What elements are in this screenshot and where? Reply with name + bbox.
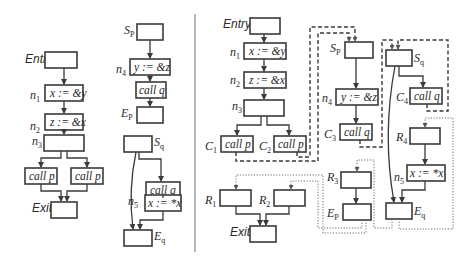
c4-code: call q xyxy=(414,90,440,103)
eq-node xyxy=(124,230,152,246)
n3-label: n3 xyxy=(32,134,42,150)
r-sp-node xyxy=(345,42,373,58)
n2-code: z := &x xyxy=(49,116,87,128)
n4-label: n4 xyxy=(116,62,126,78)
r-n2-code: z := &x xyxy=(248,74,286,86)
r4-node xyxy=(410,128,440,144)
exit-label: Exit xyxy=(32,201,53,215)
r2-node xyxy=(274,190,305,206)
ep-label: EP xyxy=(120,106,133,122)
r-n3-node xyxy=(244,100,284,116)
r-entry-label: Entry xyxy=(223,17,252,31)
r-n1-code: x := &y xyxy=(248,45,286,58)
r-n5-label: n5 xyxy=(394,170,404,186)
left-proc-q-cfg: Sq call q n5 x := *x Eq xyxy=(124,135,182,246)
sp-node xyxy=(137,24,163,40)
r4-label: R4 xyxy=(395,130,407,146)
r-eq-node xyxy=(386,203,412,219)
n3-node xyxy=(44,135,84,151)
ep-node xyxy=(137,107,163,123)
r-n4-code: y := &z xyxy=(340,91,377,104)
r-n1-label: n1 xyxy=(230,45,240,61)
r-n2-label: n2 xyxy=(230,73,240,89)
entry-node xyxy=(45,52,77,68)
r-entry-node xyxy=(250,18,280,34)
n5-code: x := *x xyxy=(147,197,182,209)
c3-code: call q xyxy=(344,126,370,139)
c1-code: call p xyxy=(225,138,251,151)
r3-node xyxy=(341,172,371,188)
n1-label: n1 xyxy=(30,88,40,104)
right-proc-p-supergraph: SP n4 y := &z C3 call q R3 EP xyxy=(322,41,378,222)
sq-node xyxy=(124,136,152,152)
r-sq-node xyxy=(386,50,412,66)
left-main-cfg: Entry n1 x := &y n2 z := &x n3 call p ca… xyxy=(25,52,103,218)
r-exit-label: Exit xyxy=(230,225,251,239)
r-sp-label: SP xyxy=(330,41,341,57)
right-proc-q-supergraph: Sq C4 call q R4 n5 x := *x Eq xyxy=(386,50,445,220)
left-proc-p-cfg: SP n4 y := &z call q EP xyxy=(116,23,170,123)
c4-label: C4 xyxy=(396,90,408,106)
c3-label: C3 xyxy=(324,127,336,143)
c2-code: call p xyxy=(278,138,304,151)
r-ep-node xyxy=(343,204,371,220)
r3-label: R3 xyxy=(326,170,338,186)
r-n5-code: x := *x xyxy=(409,167,444,179)
r1-label: R1 xyxy=(204,193,216,209)
r-eq-label: Eq xyxy=(413,204,425,220)
c2-label: C2 xyxy=(259,139,271,155)
sq-label: Sq xyxy=(154,135,164,151)
r-n3-label: n3 xyxy=(232,99,242,115)
call-q-p-code: call q xyxy=(139,84,165,97)
n1-code: x := &y xyxy=(49,87,87,100)
r1-node xyxy=(220,190,251,206)
call-p-left-code: call p xyxy=(29,170,55,183)
call-p-right-code: call p xyxy=(75,170,101,183)
icfg-diagram: Entry n1 x := &y n2 z := &x n3 call p ca… xyxy=(0,0,474,260)
r-ep-label: EP xyxy=(326,206,339,222)
exit-node xyxy=(51,202,77,218)
eq-label: Eq xyxy=(153,229,165,245)
sp-label: SP xyxy=(124,23,135,39)
right-main-supergraph: Entry n1 x := &y n2 z := &x n3 C1 call p… xyxy=(204,17,306,242)
r-sq-label: Sq xyxy=(414,51,424,67)
n4-code: y := &z xyxy=(133,61,170,74)
r-n4-label: n4 xyxy=(322,91,332,107)
c1-label: C1 xyxy=(205,139,217,155)
n2-label: n2 xyxy=(30,119,40,135)
n5-label: n5 xyxy=(128,194,138,210)
r2-label: R2 xyxy=(258,193,270,209)
r-exit-node xyxy=(250,226,276,242)
